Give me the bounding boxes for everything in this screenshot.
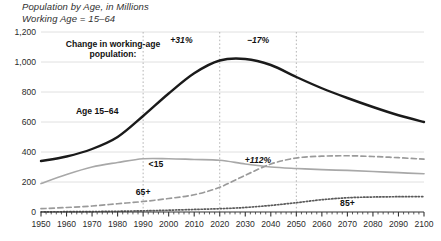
x-tick-label: 2070 bbox=[338, 219, 357, 229]
callout-group: Change in working-age population: bbox=[66, 39, 161, 59]
y-tick-label: 200 bbox=[22, 177, 37, 187]
chart-plot-area: 02004006008001,0001,200 1950196019701980… bbox=[0, 0, 441, 241]
x-tick-label: 2020 bbox=[210, 219, 229, 229]
y-axis-ticks-group: 02004006008001,0001,200 bbox=[14, 27, 36, 217]
x-tick-label: 2080 bbox=[363, 219, 382, 229]
y-tick-label: 600 bbox=[22, 117, 37, 127]
x-tick-label: 1950 bbox=[31, 219, 50, 229]
x-tick-label: 2000 bbox=[159, 219, 178, 229]
x-tick-label: 2010 bbox=[185, 219, 204, 229]
data-series-group bbox=[41, 59, 424, 212]
y-tick-label: 800 bbox=[22, 87, 37, 97]
x-axis-group bbox=[41, 212, 424, 217]
series-line-85- bbox=[41, 197, 424, 212]
y-tick-label: 0 bbox=[31, 207, 36, 217]
x-tick-label: 1960 bbox=[57, 219, 76, 229]
series-label-85-: 85+ bbox=[340, 198, 355, 208]
x-tick-label: 2050 bbox=[287, 219, 306, 229]
x-tick-label: 2100 bbox=[414, 219, 433, 229]
callout-line-1: Change in working-age bbox=[66, 39, 161, 49]
x-tick-label: 2030 bbox=[236, 219, 255, 229]
annotations-group: +31%−17%+112% bbox=[170, 35, 271, 165]
y-tick-label: 1,000 bbox=[14, 57, 36, 67]
series-label-age-15-64: Age 15–64 bbox=[76, 106, 119, 116]
annotation--31-: +31% bbox=[170, 35, 193, 45]
x-tick-label: 2090 bbox=[389, 219, 408, 229]
x-tick-label: 1980 bbox=[108, 219, 127, 229]
y-tick-label: 400 bbox=[22, 147, 37, 157]
x-tick-label: 2040 bbox=[261, 219, 280, 229]
x-tick-label: 1970 bbox=[83, 219, 102, 229]
x-tick-label: 2060 bbox=[312, 219, 331, 229]
x-tick-label: 1990 bbox=[134, 219, 153, 229]
annotation--17-: −17% bbox=[247, 35, 270, 45]
x-axis-ticks-group: 1950196019701980199020002010202020302040… bbox=[31, 219, 433, 229]
y-tick-label: 1,200 bbox=[14, 27, 36, 37]
callout-line-2: population: bbox=[90, 49, 137, 59]
series-line--15 bbox=[41, 158, 424, 183]
population-by-age-chart: Population by Age, in Millions Working A… bbox=[0, 0, 441, 241]
series-label--15: <15 bbox=[149, 159, 164, 169]
series-label-65-: 65+ bbox=[136, 187, 151, 197]
annotation--112-: +112% bbox=[245, 155, 272, 165]
